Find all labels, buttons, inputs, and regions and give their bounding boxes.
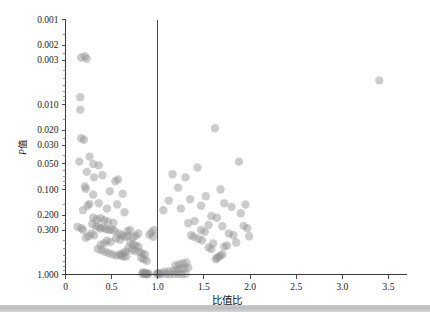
y-tick-labels: 0.0010.0020.0030.0100.0200.0300.0500.100… (37, 15, 59, 280)
y-tick-label: 0.050 (37, 159, 59, 169)
y-tick-label: 0.100 (37, 185, 59, 195)
data-point (120, 208, 128, 216)
data-point (143, 257, 151, 265)
data-point (109, 219, 117, 227)
x-tick-label: 2.0 (244, 282, 256, 292)
data-point (98, 171, 106, 179)
data-point (106, 187, 114, 195)
data-point (95, 161, 103, 169)
data-point (123, 227, 131, 235)
data-point (113, 200, 121, 208)
data-point (235, 157, 243, 165)
data-point (375, 76, 383, 84)
data-point (245, 232, 253, 240)
data-point (220, 199, 228, 207)
data-point (79, 206, 87, 214)
y-tick-label: 0.003 (37, 55, 59, 65)
page-bottom-strip (0, 305, 430, 312)
x-tick-label: 1.0 (152, 282, 164, 292)
y-tick-label: 0.002 (37, 40, 59, 50)
data-point (90, 173, 98, 181)
data-point (227, 203, 235, 211)
y-axis-title: P值 (17, 139, 28, 156)
data-point (149, 233, 157, 241)
data-point (174, 183, 182, 191)
data-point (83, 55, 91, 63)
data-point (82, 185, 90, 193)
data-point (82, 234, 90, 242)
y-tick-label: 0.200 (37, 210, 59, 220)
data-point (216, 185, 224, 193)
x-tick-label: 2.5 (290, 282, 302, 292)
y-tick-label: 0.001 (37, 15, 59, 25)
x-tick-label: 0 (63, 282, 68, 292)
data-point (218, 250, 226, 258)
data-point (201, 228, 209, 236)
x-tick-label: 1.5 (198, 282, 210, 292)
x-tick-label: 3.0 (336, 282, 348, 292)
y-tick-label: 0.020 (37, 125, 59, 135)
y-tick-label: 0.030 (37, 140, 59, 150)
data-point (76, 93, 84, 101)
data-point (229, 231, 237, 239)
plot-canvas: 00.51.01.52.02.53.03.5 0.0010.0020.0030.… (0, 0, 430, 312)
data-point (103, 204, 111, 212)
data-point (197, 201, 205, 209)
data-point (181, 173, 189, 181)
x-tick-labels: 00.51.01.52.02.53.03.5 (63, 282, 395, 292)
data-point (85, 152, 93, 160)
data-point (165, 196, 173, 204)
data-point (237, 209, 245, 217)
data-point (232, 238, 240, 246)
data-point (202, 192, 210, 200)
data-point (121, 248, 129, 256)
x-axis-title: 比值比 (212, 294, 242, 306)
data-point (159, 206, 167, 214)
data-point (184, 219, 192, 227)
scatter-plot-figure: 00.51.01.52.02.53.03.5 0.0010.0020.0030.… (0, 0, 430, 312)
data-point (116, 236, 124, 244)
data-point (213, 214, 221, 222)
x-tick-label: 3.5 (383, 282, 395, 292)
data-point (177, 204, 185, 212)
data-point (241, 200, 249, 208)
data-point (80, 136, 88, 144)
data-point (75, 157, 83, 165)
data-point (209, 239, 217, 247)
data-point (218, 222, 226, 230)
data-point (182, 258, 190, 266)
data-point (85, 200, 93, 208)
data-point (187, 231, 195, 239)
y-tick-label: 1.000 (37, 270, 59, 280)
data-point (76, 105, 84, 113)
data-point (89, 190, 97, 198)
data-point (83, 168, 91, 176)
data-point (193, 163, 201, 171)
data-point (223, 241, 231, 249)
data-point (119, 189, 127, 197)
data-point (186, 195, 194, 203)
x-tick-label: 0.5 (106, 282, 118, 292)
data-point (211, 124, 219, 132)
data-point (243, 224, 251, 232)
data-points-layer (73, 52, 383, 279)
data-point (114, 175, 122, 183)
data-point (168, 170, 176, 178)
y-tick-label: 0.010 (37, 100, 59, 110)
data-point (144, 269, 152, 277)
data-point (95, 199, 103, 207)
y-tick-label: 0.300 (37, 225, 59, 235)
